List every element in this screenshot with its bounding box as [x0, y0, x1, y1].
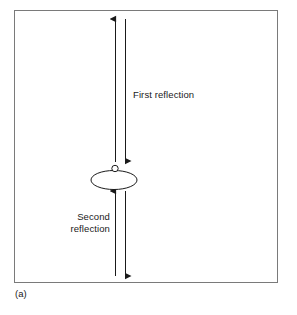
- transducer-ellipse: [91, 171, 137, 190]
- first-reflection-label: First reflection: [133, 89, 194, 101]
- second-reflection-label: Second reflection: [40, 211, 110, 235]
- figure-a-container: First reflection Second reflection (a): [0, 0, 297, 315]
- figure-caption: (a): [15, 288, 27, 299]
- transducer-knob-icon: [112, 165, 118, 171]
- reflection-diagram: [0, 0, 297, 315]
